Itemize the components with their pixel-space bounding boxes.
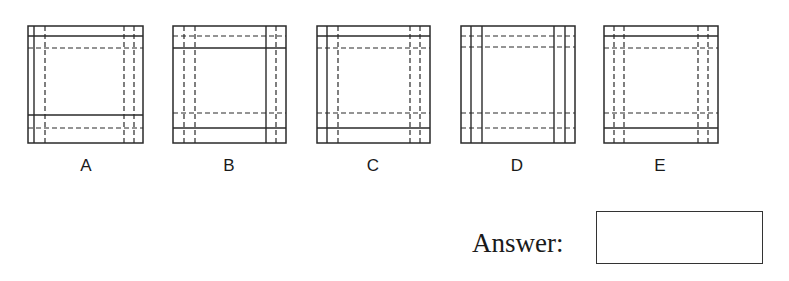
option-figure-c[interactable] <box>317 26 430 143</box>
option-label-a: A <box>71 156 101 176</box>
option-figure-b[interactable] <box>173 26 286 143</box>
option-label-d: D <box>502 156 532 176</box>
option-figure-e[interactable] <box>604 26 718 143</box>
option-label-e: E <box>645 156 675 176</box>
figure-outer-square <box>461 26 575 143</box>
option-label-c: C <box>358 156 388 176</box>
answer-label: Answer: <box>472 228 563 259</box>
figure-outer-square <box>173 26 286 143</box>
figure-outer-square <box>317 26 430 143</box>
option-label-b: B <box>214 156 244 176</box>
answer-input-box[interactable] <box>596 211 763 264</box>
figure-outer-square <box>604 26 718 143</box>
option-figure-d[interactable] <box>461 26 575 143</box>
option-figure-a[interactable] <box>28 26 143 143</box>
